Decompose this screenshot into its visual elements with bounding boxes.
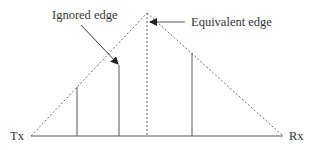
- tx-label: Tx: [10, 129, 25, 143]
- ignored-edge-arrow: [81, 25, 118, 64]
- dashed-left-slope: [31, 13, 147, 136]
- dashed-right-slope: [147, 13, 283, 136]
- equivalent-edge-label: Equivalent edge: [191, 15, 272, 29]
- ignored-edge-label: Ignored edge: [52, 8, 118, 22]
- rx-label: Rx: [289, 129, 304, 143]
- knife-edge-diagram: Ignored edge Equivalent edge Tx Rx: [0, 0, 316, 150]
